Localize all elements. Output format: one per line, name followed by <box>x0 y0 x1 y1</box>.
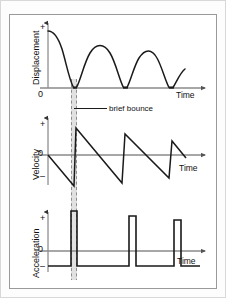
acceleration-tick-minus: – <box>40 261 45 271</box>
velocity-time-label: Time <box>179 163 198 173</box>
acceleration-tick-zero: 0 <box>38 244 43 254</box>
physics-bouncing-ball-figure: Displacement Velocity Acceleration + 0 +… <box>0 0 226 298</box>
displacement-tick-plus: + <box>40 22 45 32</box>
displacement-time-label: Time <box>176 90 195 100</box>
acceleration-tick-plus: + <box>40 213 45 223</box>
panel-velocity <box>40 118 205 186</box>
displacement-axis-label: Displacement <box>31 30 41 85</box>
velocity-curve <box>48 128 186 186</box>
velocity-tick-minus: – <box>40 171 45 181</box>
displacement-tick-zero: 0 <box>38 89 43 99</box>
brief-bounce-annotation: brief bounce <box>109 104 153 113</box>
velocity-tick-zero: 0 <box>38 148 43 158</box>
acceleration-time-label: Time <box>177 256 196 266</box>
panel-displacement <box>40 23 205 88</box>
displacement-curve <box>48 31 185 88</box>
velocity-tick-plus: + <box>40 119 45 129</box>
